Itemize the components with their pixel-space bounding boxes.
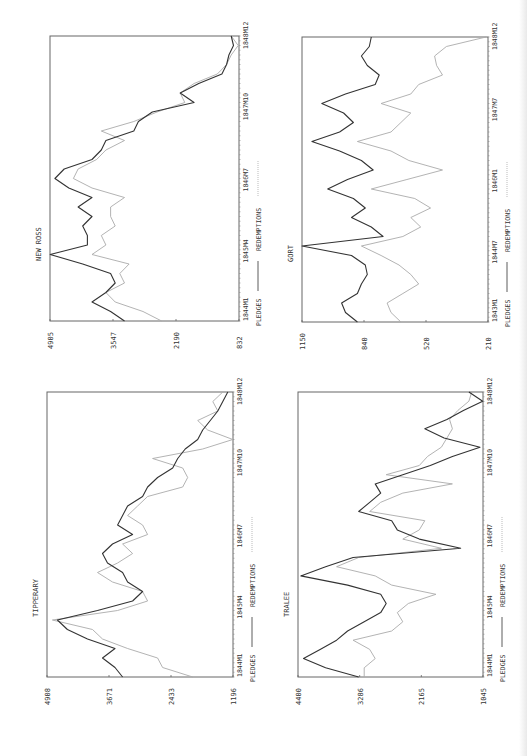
legend-pledges-label: PLEDGES: [499, 655, 507, 682]
plot-frame: [47, 392, 233, 677]
legend-pledges-label: PLEDGES: [255, 299, 263, 326]
x-tick-label: 1846M7: [486, 524, 494, 548]
plot-frame: [302, 37, 488, 322]
chart-title: NEW ROSS: [35, 227, 43, 261]
y-tick-label: 3547: [110, 332, 118, 349]
x-tick-label: 1844M1: [486, 653, 494, 677]
y-tick-label: 2165: [418, 688, 426, 705]
x-tick-label: 1844M7: [491, 240, 499, 264]
x-tick-label: 1843M1: [491, 298, 499, 322]
chart-title: GORT: [287, 244, 295, 262]
legend-pledges-label: PLEDGES: [504, 300, 512, 327]
x-tick-label: 1848M12: [242, 22, 250, 49]
series-redemptions-line: [73, 36, 238, 321]
x-tick-label: 1847M10: [242, 93, 250, 120]
x-tick-label: 1845M4: [242, 239, 250, 263]
plot-frame: [298, 392, 483, 677]
y-tick-label: 210: [485, 337, 493, 350]
chart-title: TRALEE: [283, 592, 291, 617]
series-redemptions-line: [52, 392, 232, 677]
x-tick-label: 1846M7: [236, 524, 244, 548]
y-tick-label: 520: [423, 337, 431, 350]
legend-redemptions-label: REDEMPTIONS: [504, 209, 512, 252]
y-tick-label: 1045: [480, 688, 488, 705]
legend-redemptions-label: REDEMPTIONS: [249, 564, 257, 607]
y-tick-label: 2190: [173, 332, 181, 349]
y-tick-label: 4908: [44, 688, 52, 705]
x-tick-label: 1844M1: [236, 653, 244, 677]
chart-new-ross: [50, 36, 258, 321]
series-redemptions-line: [337, 392, 472, 677]
legend-redemptions-label: REDEMPTIONS: [499, 564, 507, 607]
y-tick-label: 2433: [168, 688, 176, 705]
x-tick-label: 1847M7: [491, 98, 499, 122]
chart-tralee: [298, 392, 502, 677]
series-pledges-line: [57, 392, 227, 677]
chart-title: TIPPERARY: [32, 578, 40, 617]
y-tick-label: 1196: [230, 688, 238, 705]
y-tick-label: 4905: [47, 332, 55, 349]
x-tick-label: 1848M12: [491, 23, 499, 50]
y-tick-label: 840: [361, 337, 369, 350]
legend-redemptions-label: REDEMPTIONS: [255, 208, 263, 251]
x-tick-label: 1847M10: [236, 449, 244, 476]
series-pledges-line: [301, 392, 483, 677]
chart-page: 4905354721908321844M11845M41846M71847M10…: [0, 0, 527, 756]
x-tick-label: 1848M12: [486, 378, 494, 405]
legend-pledges-label: PLEDGES: [249, 655, 257, 682]
page-edge: [519, 0, 527, 756]
x-tick-label: 1845M4: [486, 595, 494, 619]
x-tick-label: 1844M1: [242, 297, 250, 321]
y-tick-label: 3286: [357, 688, 365, 705]
x-tick-label: 1846M7: [242, 168, 250, 192]
y-tick-label: 1150: [299, 333, 307, 350]
x-tick-label: 1847M10: [486, 449, 494, 476]
y-tick-label: 4400: [295, 688, 303, 705]
chart-tipperary: [47, 392, 252, 677]
chart-gort: [302, 37, 507, 322]
y-tick-label: 832: [236, 336, 244, 349]
series-pledges-line: [302, 37, 383, 322]
x-tick-label: 1848M12: [236, 378, 244, 405]
y-tick-label: 3671: [106, 688, 114, 705]
x-tick-label: 1845M4: [236, 595, 244, 619]
x-tick-label: 1846M1: [491, 169, 499, 193]
